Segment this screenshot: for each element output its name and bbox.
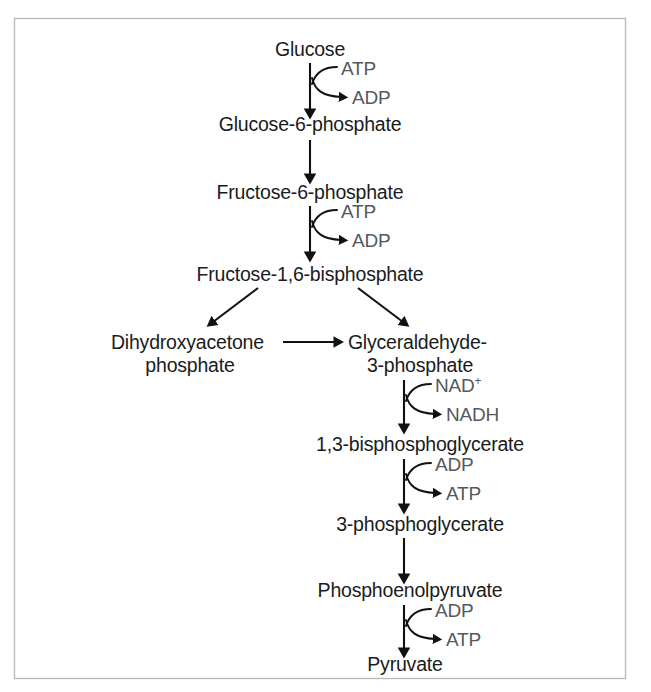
cofactor-substrate-label: ATP: [341, 58, 376, 79]
cofactor-product-label: ADP: [352, 87, 390, 108]
dhap-line-1: Dihydroxyacetone: [111, 331, 264, 353]
metabolite-glyceraldehyde-3-phosphate: Glyceraldehyde- 3-phosphate: [348, 331, 492, 376]
metabolite-3-phosphoglycerate: 3-phosphoglycerate: [336, 513, 504, 535]
metabolite-fructose-6-phosphate: Fructose-6-phosphate: [217, 181, 404, 203]
cofactor-product-label: ATP: [446, 629, 481, 650]
metabolite-glucose: Glucose: [275, 38, 345, 60]
metabolite-1-3-bisphosphoglycerate: 1,3-bisphosphoglycerate: [316, 433, 524, 455]
cofactor-substrate-label: ADP: [435, 600, 473, 621]
cofactor-substrate-label: ADP: [435, 454, 473, 475]
dhap-line-2: phosphate: [145, 354, 234, 376]
cofactor-product-label: NADH: [446, 404, 499, 425]
cofactor-substrate-label: ATP: [341, 201, 376, 222]
metabolite-pyruvate: Pyruvate: [367, 653, 442, 675]
metabolite-glucose-6-phosphate: Glucose-6-phosphate: [219, 113, 402, 135]
cofactor-product-label: ADP: [352, 230, 390, 251]
g3p-line-1: Glyceraldehyde-: [348, 331, 487, 353]
metabolite-phosphoenolpyruvate: Phosphoenolpyruvate: [318, 579, 503, 601]
metabolite-fructose-1-6-bisphosphate: Fructose-1,6-bisphosphate: [197, 263, 424, 285]
pathway-diagram: ATP ADP ATP ADP NAD+ NADH ADP ATP: [0, 0, 651, 692]
cofactor-product-label: ATP: [446, 483, 481, 504]
glycolysis-figure: ATP ADP ATP ADP NAD+ NADH ADP ATP: [0, 0, 651, 692]
g3p-line-2: 3-phosphate: [367, 354, 473, 376]
